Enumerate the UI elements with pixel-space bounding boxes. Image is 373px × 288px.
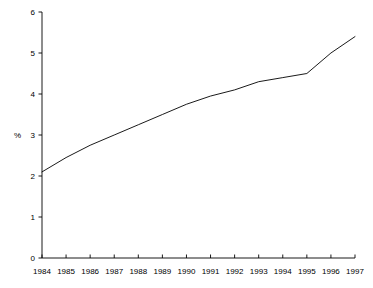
axes [42, 12, 355, 258]
x-axis-tick-label: 1993 [249, 268, 269, 276]
data-series [42, 37, 355, 172]
x-axis-tick-label: 1986 [80, 268, 100, 276]
y-axis-tick-labels: 0123456 [31, 8, 36, 263]
y-axis-tick-label: 0 [31, 254, 36, 263]
x-axis-tick-label: 1995 [297, 268, 317, 276]
y-axis-ticks [39, 12, 43, 258]
y-axis-tick-label: 5 [31, 49, 36, 58]
x-axis-tick-label: 1984 [32, 268, 52, 276]
x-axis-tick-label: 1992 [225, 268, 245, 276]
x-axis-tick-label: 1988 [128, 268, 148, 276]
y-axis-tick-label: 3 [31, 131, 36, 140]
y-axis-tick-label: 6 [31, 8, 36, 17]
chart-canvas: 0123456 % [0, 0, 373, 288]
x-axis-tick-label: 1996 [321, 268, 341, 276]
y-axis-title: % [14, 131, 21, 140]
y-axis-tick-label: 1 [31, 213, 36, 222]
y-axis-tick-label: 4 [31, 90, 36, 99]
x-axis-tick-label: 1997 [345, 268, 365, 276]
line-chart: 0123456 % 198419851986198719881989199019… [0, 0, 373, 288]
x-axis-tick-label: 1991 [201, 268, 221, 276]
x-axis-ticks [42, 255, 355, 259]
y-axis-tick-label: 2 [31, 172, 36, 181]
x-axis-tick-label: 1989 [152, 268, 172, 276]
x-axis-tick-label: 1985 [56, 268, 76, 276]
series-line [42, 37, 355, 172]
x-axis-tick-label: 1987 [104, 268, 124, 276]
x-axis-tick-label: 1994 [273, 268, 293, 276]
x-axis-tick-label: 1990 [176, 268, 196, 276]
